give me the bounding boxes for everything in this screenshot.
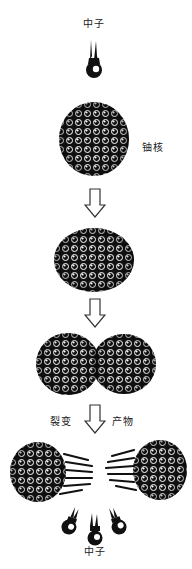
excited-nucleus-icon — [52, 226, 136, 294]
released-neutron-icon — [108, 505, 128, 537]
released-neutron-icon — [60, 505, 80, 537]
down-arrow-icon — [84, 188, 106, 218]
down-arrow-icon — [84, 298, 106, 328]
neutron-label-bottom: 中子 — [84, 546, 106, 558]
down-arrow-icon — [84, 404, 106, 434]
released-neutron-icon — [85, 512, 105, 548]
uranium-nucleus-icon — [56, 100, 132, 178]
deformed-nucleus-icon — [34, 330, 158, 396]
fission-label: 裂变 — [50, 416, 72, 428]
nucleus-label: 铀核 — [142, 142, 164, 154]
incoming-neutron-icon — [83, 38, 105, 80]
fission-product-right-icon — [104, 438, 188, 502]
neutron-label-top: 中子 — [83, 18, 105, 30]
fission-product-left-icon — [8, 440, 94, 504]
products-label: 产物 — [112, 416, 134, 428]
